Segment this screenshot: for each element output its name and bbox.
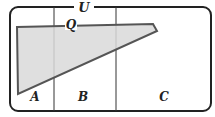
region-b-label: B xyxy=(77,90,88,104)
region-c-label: C xyxy=(159,90,169,104)
venn-diagram: U Q A B C xyxy=(0,0,215,117)
region-a-label: A xyxy=(29,90,39,104)
set-q-shape xyxy=(17,24,157,94)
universe-label: U xyxy=(78,0,90,15)
set-q-label: Q xyxy=(66,18,77,32)
